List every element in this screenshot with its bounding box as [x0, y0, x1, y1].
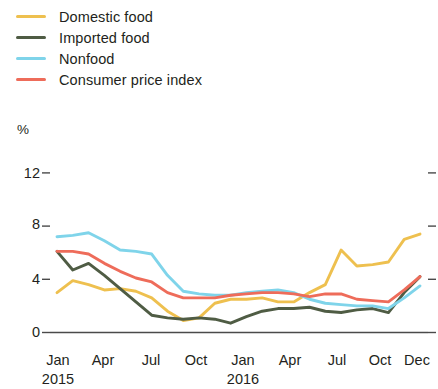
series-lines [57, 233, 420, 323]
series-line-nonfood [57, 233, 420, 309]
series-line-consumer-price-index [57, 251, 420, 302]
series-line-imported-food [57, 251, 420, 323]
chart-figure: Domestic food Imported food Nonfood Cons… [0, 0, 438, 389]
plot-area [0, 0, 438, 389]
series-line-domestic-food [57, 234, 420, 320]
